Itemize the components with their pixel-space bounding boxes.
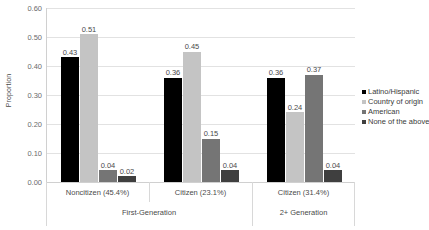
x-axis-generation-label: 2+ Generation — [280, 208, 328, 217]
x-axis-separator — [354, 182, 355, 226]
bar-value-label: 0.45 — [185, 43, 200, 51]
legend-item-label: Latino/Hispanic — [368, 88, 419, 96]
bar-value-label: 0.43 — [63, 49, 78, 57]
legend-swatch-icon — [362, 100, 366, 104]
bar-value-label: 0.04 — [223, 162, 238, 170]
bar: 0.36 — [267, 78, 285, 182]
plot-area: 0.430.510.040.020.360.450.150.040.360.24… — [46, 8, 355, 182]
y-axis-tick-label: 0.50 — [27, 33, 42, 42]
y-axis-tick-label: 0.30 — [27, 91, 42, 100]
bar-value-label: 0.37 — [307, 66, 322, 74]
legend: Latino/HispanicCountry of originAmerican… — [362, 88, 428, 128]
bar-value-label: 0.36 — [269, 69, 284, 77]
x-axis-band: Noncitizen (45.4%)Citizen (23.1%)Citizen… — [46, 182, 355, 226]
legend-item[interactable]: None of the above — [362, 118, 428, 126]
x-axis-generation-label: First-Generation — [122, 208, 176, 217]
legend-item-label: American — [368, 108, 400, 116]
x-axis-category-label: Noncitizen (45.4%) — [66, 188, 129, 197]
bar-value-label: 0.02 — [120, 168, 135, 176]
y-axis-title-text: Proportion — [6, 73, 13, 106]
bar: 0.04 — [324, 170, 342, 182]
bar: 0.15 — [202, 139, 220, 183]
bars-layer: 0.430.510.040.020.360.450.150.040.360.24… — [47, 8, 355, 182]
y-axis-tick-label: 0.20 — [27, 120, 42, 129]
bar: 0.24 — [286, 112, 304, 182]
bar-value-label: 0.36 — [166, 69, 181, 77]
bar-value-label: 0.24 — [288, 104, 303, 112]
bar: 0.51 — [80, 34, 98, 182]
legend-swatch-icon — [362, 90, 366, 94]
x-axis-separator — [252, 182, 253, 226]
legend-item[interactable]: Country of origin — [362, 98, 428, 106]
legend-item-label: Country of origin — [368, 98, 423, 106]
y-axis-tick-label: 0.40 — [27, 62, 42, 71]
x-axis-category-label: Citizen (23.1%) — [175, 188, 226, 197]
legend-swatch-icon — [362, 110, 366, 114]
y-axis-tick-label: 0.10 — [27, 149, 42, 158]
x-axis-category-label: Citizen (31.4%) — [278, 188, 329, 197]
y-axis-tick-labels: 0.600.500.400.300.200.100.00 — [14, 0, 44, 182]
y-axis-tick-label: 0.00 — [27, 178, 42, 187]
legend-swatch-icon — [362, 120, 366, 124]
bar-value-label: 0.04 — [326, 162, 341, 170]
legend-item-label: None of the above — [368, 118, 429, 126]
bar: 0.04 — [221, 170, 239, 182]
x-axis-separator — [46, 182, 47, 226]
bar: 0.04 — [99, 170, 117, 182]
x-axis-separator — [149, 182, 150, 202]
bar: 0.43 — [61, 57, 79, 182]
bar-value-label: 0.04 — [101, 162, 116, 170]
bar: 0.37 — [305, 75, 323, 182]
bar: 0.36 — [164, 78, 182, 182]
legend-item[interactable]: Latino/Hispanic — [362, 88, 428, 96]
bar-value-label: 0.51 — [82, 26, 97, 34]
y-axis-tick-label: 0.60 — [27, 4, 42, 13]
bar-value-label: 0.15 — [204, 130, 219, 138]
legend-item[interactable]: American — [362, 108, 428, 116]
bar: 0.45 — [183, 52, 201, 183]
bar-chart: Proportion 0.600.500.400.300.200.100.00 … — [0, 0, 429, 230]
